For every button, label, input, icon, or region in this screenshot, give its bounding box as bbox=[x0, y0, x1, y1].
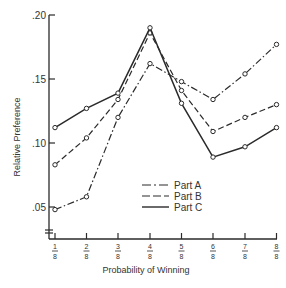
data-point-marker bbox=[243, 72, 247, 76]
data-point-marker bbox=[84, 106, 88, 110]
svg-text:8: 8 bbox=[148, 253, 152, 260]
data-point-marker bbox=[274, 125, 278, 129]
data-point-marker bbox=[53, 163, 57, 167]
data-point-marker bbox=[211, 129, 215, 133]
x-tick-label: 38 bbox=[115, 243, 121, 260]
data-point-marker bbox=[53, 207, 57, 211]
legend-item: Part A bbox=[142, 180, 202, 191]
svg-text:2: 2 bbox=[85, 243, 89, 250]
data-point-marker bbox=[211, 155, 215, 159]
data-point-marker bbox=[116, 91, 120, 95]
x-tick-label: 48 bbox=[147, 243, 153, 260]
x-tick-label: 18 bbox=[52, 243, 58, 260]
svg-text:8: 8 bbox=[243, 253, 247, 260]
svg-text:8: 8 bbox=[211, 253, 215, 260]
x-tick-label: 28 bbox=[84, 243, 90, 260]
data-point-marker bbox=[116, 115, 120, 119]
svg-text:1: 1 bbox=[53, 243, 57, 250]
svg-text:4: 4 bbox=[148, 243, 152, 250]
svg-text:8: 8 bbox=[85, 253, 89, 260]
legend: Part APart BPart C bbox=[142, 180, 202, 213]
svg-text:8: 8 bbox=[53, 253, 57, 260]
data-point-marker bbox=[274, 42, 278, 46]
data-point-marker bbox=[243, 145, 247, 149]
svg-text:6: 6 bbox=[211, 243, 215, 250]
svg-text:8: 8 bbox=[275, 253, 279, 260]
x-tick-label: 58 bbox=[179, 243, 185, 260]
svg-text:8: 8 bbox=[275, 243, 279, 250]
data-point-marker bbox=[116, 97, 120, 101]
data-point-marker bbox=[84, 195, 88, 199]
y-axis-title: Relative Preference bbox=[12, 97, 22, 176]
data-point-marker bbox=[243, 115, 247, 119]
data-point-marker bbox=[53, 125, 57, 129]
x-tick-label: 78 bbox=[242, 243, 248, 260]
svg-text:5: 5 bbox=[180, 243, 184, 250]
y-tick-label: .15 bbox=[32, 74, 46, 85]
svg-text:7: 7 bbox=[243, 243, 247, 250]
svg-text:3: 3 bbox=[116, 243, 120, 250]
x-tick-label: 88 bbox=[274, 243, 280, 260]
x-tick-label: 68 bbox=[210, 243, 216, 260]
data-point-marker bbox=[179, 101, 183, 105]
y-tick-label: .10 bbox=[32, 138, 46, 149]
data-point-marker bbox=[211, 97, 215, 101]
data-point-marker bbox=[148, 26, 152, 30]
y-tick-label: .20 bbox=[32, 10, 46, 21]
legend-label: Part B bbox=[174, 191, 202, 202]
legend-item: Part B bbox=[142, 191, 202, 202]
data-point-marker bbox=[179, 79, 183, 83]
legend-item: Part C bbox=[142, 202, 202, 213]
y-axis: .05.10.15.20 bbox=[32, 10, 55, 240]
legend-label: Part C bbox=[174, 202, 202, 213]
svg-text:8: 8 bbox=[116, 253, 120, 260]
svg-text:8: 8 bbox=[180, 253, 184, 260]
data-point-marker bbox=[274, 102, 278, 106]
x-axis-title: Probability of Winning bbox=[102, 265, 189, 275]
y-tick-label: .05 bbox=[32, 202, 46, 213]
data-point-marker bbox=[148, 61, 152, 65]
data-point-marker bbox=[84, 136, 88, 140]
x-axis: 1828384858687888 bbox=[49, 233, 280, 260]
legend-label: Part A bbox=[174, 180, 202, 191]
line-chart: .05.10.15.20 1828384858687888 Part APart… bbox=[0, 0, 286, 288]
data-point-marker bbox=[179, 88, 183, 92]
series-layer bbox=[53, 26, 279, 212]
series-part-a bbox=[53, 42, 279, 212]
